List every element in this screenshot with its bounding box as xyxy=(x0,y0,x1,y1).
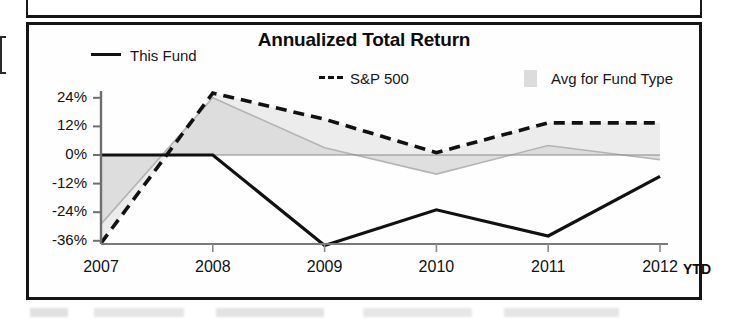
series-line-this-fund xyxy=(101,155,660,246)
avg-for-fund-type-line xyxy=(101,98,660,224)
y-axis-tick-label: 24% xyxy=(29,88,87,105)
x-axis-tick-label: 2008 xyxy=(168,258,258,276)
y-axis-tick-label: 12% xyxy=(29,116,87,133)
x-axis-tick-label: 2007 xyxy=(56,258,146,276)
y-axis-tick-label: -36% xyxy=(29,231,87,248)
page-margin-mark xyxy=(0,36,6,74)
x-axis-ytd-label: YTD xyxy=(683,261,711,277)
y-axis-tick-label: -24% xyxy=(29,202,87,219)
x-axis-tick-label: 2010 xyxy=(391,258,481,276)
adjacent-panel-edge xyxy=(26,0,702,18)
y-axis-tick-label: -12% xyxy=(29,174,87,191)
plot-area: 24%12%0%-12%-24%-36%20072008200920102011… xyxy=(29,25,705,303)
x-axis-tick-label: 2011 xyxy=(503,258,593,276)
scan-artifact xyxy=(30,308,670,317)
x-axis-tick-label: 2009 xyxy=(280,258,370,276)
y-axis-tick-label: 0% xyxy=(29,145,87,162)
annualized-total-return-chart-panel: Annualized Total Return This Fund S&P 50… xyxy=(26,22,702,300)
